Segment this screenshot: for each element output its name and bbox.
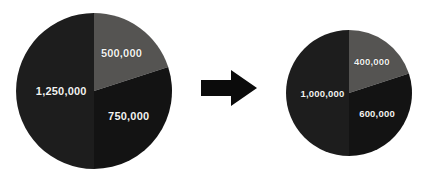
pie-slice [286, 30, 349, 156]
pie-slice [16, 13, 94, 169]
transition-arrow [201, 70, 257, 106]
figure-canvas: 500,000 750,000 1,250,000 400,000 600,00… [0, 0, 426, 177]
after-pie-chart: 400,000 600,000 1,000,000 [284, 28, 414, 158]
before-pie-chart: 500,000 750,000 1,250,000 [14, 11, 174, 171]
after-pie-svg [284, 28, 414, 158]
before-pie-svg [14, 11, 174, 171]
right-arrow-icon [201, 70, 257, 106]
